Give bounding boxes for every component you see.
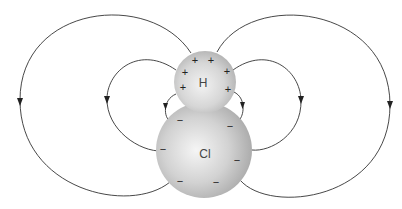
svg-text:−: − <box>160 143 166 155</box>
arrow-down-icon <box>387 101 393 109</box>
svg-text:−: − <box>177 114 183 126</box>
svg-text:+: + <box>208 54 214 66</box>
arrow-down-icon <box>163 103 168 110</box>
svg-text:+: + <box>225 83 231 95</box>
arrow-down-icon <box>298 96 304 104</box>
hydrogen-label: H <box>199 76 208 90</box>
svg-text:+: + <box>224 65 230 77</box>
arrow-down-icon <box>17 98 23 106</box>
hcl-dipole-diagram: H + + + + + + Cl − − − − − − <box>0 0 402 209</box>
svg-text:+: + <box>180 81 186 93</box>
arrow-down-icon <box>240 102 245 109</box>
svg-text:−: − <box>177 175 183 187</box>
arrow-down-icon <box>104 96 110 104</box>
svg-text:+: + <box>182 66 188 78</box>
svg-text:+: + <box>192 54 198 66</box>
svg-text:−: − <box>213 176 219 188</box>
chlorine-label: Cl <box>199 147 210 161</box>
svg-text:−: − <box>234 154 240 166</box>
svg-text:−: − <box>227 120 233 132</box>
